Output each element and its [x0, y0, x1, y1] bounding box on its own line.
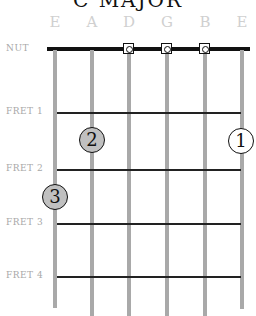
fret-label-3: FRET 3 [6, 217, 43, 227]
fret-line-3 [57, 223, 241, 225]
string-label-4: B [195, 13, 215, 31]
open-string-icon [123, 43, 134, 54]
string-label-1: A [82, 13, 102, 31]
finger-marker-2: 2 [79, 127, 105, 153]
nut-bar [47, 47, 250, 51]
string-label-3: G [157, 13, 177, 31]
string-line-0 [53, 50, 57, 308]
fret-line-4 [57, 276, 241, 278]
string-label-2: D [119, 13, 139, 31]
string-label-5: E [232, 13, 252, 31]
fret-line-1 [57, 112, 241, 114]
open-string-icon [199, 43, 210, 54]
open-string-icon [161, 43, 172, 54]
chord-title: C MAJOR [0, 0, 256, 12]
nut-label: NUT [6, 43, 29, 53]
finger-marker-1: 1 [228, 128, 254, 154]
string-line-5 [240, 50, 244, 309]
string-label-0: E [45, 13, 65, 31]
fret-label-2: FRET 2 [6, 163, 43, 173]
fret-label-1: FRET 1 [6, 106, 43, 116]
fret-label-4: FRET 4 [6, 270, 43, 280]
fret-line-2 [57, 169, 241, 171]
finger-marker-3: 3 [42, 184, 68, 210]
